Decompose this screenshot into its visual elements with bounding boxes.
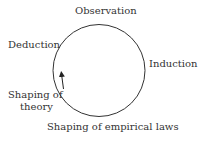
label-shaping-of-theory-line1: Shaping of bbox=[8, 89, 63, 100]
cycle-diagram bbox=[0, 0, 198, 141]
direction-arrow bbox=[62, 74, 64, 89]
cycle-circle bbox=[53, 25, 145, 117]
label-induction: Induction bbox=[149, 58, 198, 69]
label-shaping-of-theory-line2: theory bbox=[20, 101, 53, 112]
label-shaping-empirical-laws: Shaping of empirical laws bbox=[47, 121, 179, 132]
label-observation: Observation bbox=[75, 5, 137, 16]
label-deduction: Deduction bbox=[8, 39, 60, 50]
